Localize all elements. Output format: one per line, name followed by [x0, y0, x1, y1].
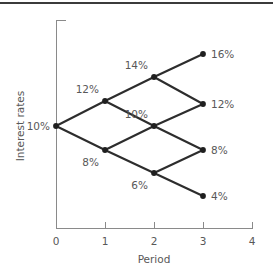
node-dot-p3-4[interactable]: [200, 193, 206, 199]
x-axis-title: Period: [138, 253, 171, 265]
x-tick-label-2: 2: [151, 235, 158, 247]
node-dot-p1-12[interactable]: [102, 98, 108, 104]
edge-root-to-12: [56, 101, 105, 126]
x-tick-label-1: 1: [102, 235, 109, 247]
node-dot-p3-16[interactable]: [200, 51, 206, 57]
edge-14-to-16: [154, 54, 203, 77]
lattice-nodes-group: [53, 51, 206, 199]
node-label-p2-6: 6%: [131, 179, 148, 191]
edge-6-to-4: [154, 173, 203, 196]
edge-14-to-12: [154, 77, 203, 104]
node-dot-p3-12[interactable]: [200, 101, 206, 107]
edge-12-to-14: [105, 77, 154, 101]
x-tick-label-3: 3: [200, 235, 207, 247]
node-label-p3-16: 16%: [211, 48, 234, 60]
interest-rate-lattice-figure: 0 1 2 3 4 Period Interest rates: [0, 0, 273, 270]
node-label-p3-4: 4%: [211, 190, 228, 202]
edge-8-to-6: [105, 150, 154, 173]
y-axis-title: Interest rates: [14, 91, 26, 162]
node-label-p1-12: 12%: [76, 83, 99, 95]
node-dot-p2-6[interactable]: [151, 170, 157, 176]
node-label-p3-8: 8%: [211, 144, 228, 156]
node-dot-p2-10[interactable]: [151, 123, 157, 129]
x-tick-label-0: 0: [53, 235, 60, 247]
lattice-edges-group: [56, 54, 203, 196]
edge-root-to-8: [56, 126, 105, 150]
node-dot-p3-8[interactable]: [200, 147, 206, 153]
node-label-p3-12: 12%: [211, 98, 234, 110]
node-label-root-10: 10%: [27, 120, 50, 132]
x-tick-label-4: 4: [249, 235, 256, 247]
node-dot-root-10[interactable]: [53, 123, 59, 129]
node-dot-p1-8[interactable]: [102, 147, 108, 153]
node-label-p2-10: 10%: [125, 108, 148, 120]
lattice-canvas: 0 1 2 3 4 Period Interest rates: [0, 0, 273, 270]
node-dot-p2-14[interactable]: [151, 74, 157, 80]
edge-10-to-12: [154, 104, 203, 126]
node-label-p1-8: 8%: [82, 156, 99, 168]
node-label-p2-14: 14%: [125, 59, 148, 71]
edge-8-to-10: [105, 126, 154, 150]
edge-10-to-8: [154, 126, 203, 150]
edge-6-to-8: [154, 150, 203, 173]
